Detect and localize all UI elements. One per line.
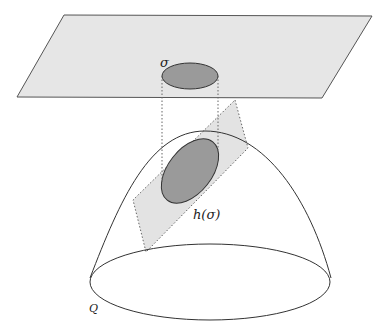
base-ellipse [90,244,330,320]
label-sigma: σ [160,56,169,69]
label-h-sigma: h(σ) [193,208,220,221]
label-Q: Q [89,303,98,314]
sigma-region [162,63,218,89]
projection-diagram [0,0,384,336]
